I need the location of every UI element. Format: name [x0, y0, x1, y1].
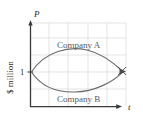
- graph-svg: P t 1 $ million Company A Company B: [0, 0, 143, 119]
- y-axis-title: $ million: [5, 61, 15, 94]
- figure-container: P t 1 $ million Company A Company B: [0, 0, 143, 119]
- label-company-b: Company B: [57, 94, 100, 104]
- x-axis-symbol-label: t: [128, 102, 131, 112]
- y-axis-symbol-label: P: [33, 9, 40, 19]
- label-company-a: Company A: [57, 40, 101, 50]
- y-tick-label-1: 1: [20, 67, 24, 77]
